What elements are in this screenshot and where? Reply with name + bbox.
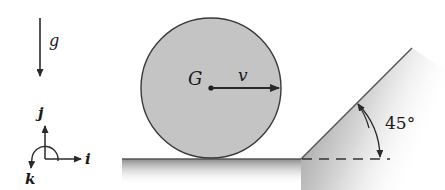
coordinate-axes: j i k	[25, 104, 91, 188]
incline-surface	[301, 48, 445, 190]
rolling-disk: G v	[141, 18, 281, 158]
diagram-canvas: g j i k 45°	[0, 0, 445, 190]
k-axis-label: k	[25, 170, 35, 188]
angle-label: 45°	[385, 113, 415, 133]
gravity-label: g	[49, 31, 59, 50]
velocity-label: v	[238, 65, 248, 85]
ground-surface	[122, 159, 304, 185]
j-axis-label: j	[35, 104, 44, 122]
i-axis-label: i	[85, 150, 91, 168]
gravity-vector: g	[40, 18, 59, 76]
center-of-mass-label: G	[188, 68, 202, 89]
